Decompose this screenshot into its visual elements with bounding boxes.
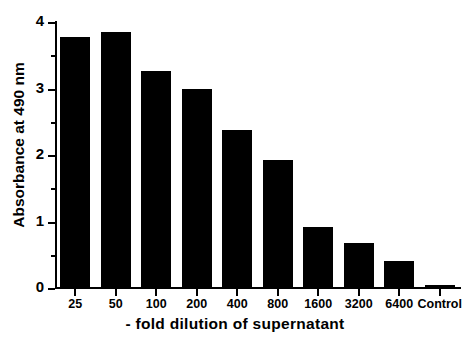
bar [425, 285, 455, 288]
x-axis-tick-mark [398, 289, 400, 296]
x-axis-tick-mark [277, 289, 279, 296]
plot-area [55, 22, 460, 288]
y-axis-title: Absorbance at 490 nm [4, 0, 34, 290]
x-axis-tick-label: 6400 [385, 297, 413, 311]
x-axis-tick-mark [74, 289, 76, 296]
bar [344, 243, 374, 288]
x-axis-tick-mark [236, 289, 238, 296]
bar [222, 130, 252, 288]
x-axis-tick-mark [317, 289, 319, 296]
bar [141, 71, 171, 288]
y-axis-tick-label: 0 [36, 278, 44, 296]
x-axis-tick-mark [155, 289, 157, 296]
x-axis-tick-mark [358, 289, 360, 296]
y-axis-tick-mark [48, 155, 55, 157]
y-axis-tick-mark [48, 89, 55, 91]
x-axis-tick-label: 1600 [304, 297, 332, 311]
x-axis-tick-label: Control [418, 297, 462, 311]
x-axis-tick-label: 25 [68, 297, 82, 311]
x-axis-tick-mark [439, 289, 441, 296]
x-axis-tick-label: 50 [109, 297, 123, 311]
bar [60, 37, 90, 288]
x-axis-tick-label: 400 [227, 297, 248, 311]
y-axis-tick-mark [48, 22, 55, 24]
bar [182, 89, 212, 289]
y-axis-tick-mark [48, 222, 55, 224]
bar [101, 32, 131, 288]
y-axis-tick-label: 2 [36, 145, 44, 163]
bar [263, 160, 293, 288]
y-axis-tick-label: 3 [36, 79, 44, 97]
x-axis-tick-label: 3200 [345, 297, 373, 311]
x-axis-tick-label: 200 [186, 297, 207, 311]
bar [384, 261, 414, 288]
y-axis-tick-mark [48, 288, 55, 290]
x-axis-title: - fold dilution of supernatant [0, 315, 470, 333]
x-axis-tick-label: 800 [267, 297, 288, 311]
bar [303, 227, 333, 288]
bar-chart-figure: Absorbance at 490 nm 01234 2550100200400… [0, 0, 470, 348]
x-axis-tick-mark [196, 289, 198, 296]
x-axis-tick-label: 100 [146, 297, 167, 311]
y-axis-tick-label: 4 [36, 12, 44, 30]
y-axis-tick-label: 1 [36, 212, 44, 230]
x-axis-tick-mark [115, 289, 117, 296]
